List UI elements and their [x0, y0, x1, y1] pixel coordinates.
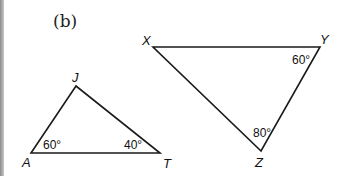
vertex-label-t: T — [163, 156, 172, 171]
angle-label-z: 80° — [253, 126, 271, 140]
triangle-xyz: X Y Z 60° 80° — [141, 32, 330, 170]
vertex-label-z: Z — [254, 155, 264, 170]
triangle-jat: J A T 60° 40° — [21, 70, 172, 171]
diagram-canvas: J A T 60° 40° X Y Z 60° 80° — [0, 0, 337, 176]
angle-label-a: 60° — [43, 138, 61, 152]
vertex-label-y: Y — [320, 32, 330, 47]
vertex-label-j: J — [71, 70, 79, 85]
vertex-label-a: A — [21, 155, 31, 170]
angle-label-y: 60° — [292, 53, 310, 67]
vertex-label-x: X — [141, 33, 152, 48]
angle-label-t: 40° — [124, 138, 142, 152]
